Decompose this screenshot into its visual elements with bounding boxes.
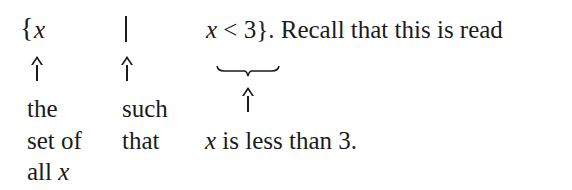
up-arrow-icon bbox=[126, 57, 128, 81]
condition: x < 3}. Recall that this is read bbox=[206, 17, 503, 42]
annotation-the: the bbox=[27, 96, 58, 121]
annotation-all-x: all x bbox=[27, 159, 69, 184]
condition-inequality: < 3} bbox=[217, 16, 268, 43]
annotation-all-variable: x bbox=[58, 158, 69, 185]
annotation-set-of: set of bbox=[27, 128, 82, 153]
annotation-that: that bbox=[122, 128, 160, 153]
up-arrow-icon bbox=[247, 88, 249, 112]
trailing-sentence: . Recall that this is read bbox=[268, 16, 503, 43]
up-arrow-icon bbox=[36, 57, 38, 81]
set-variable: x bbox=[34, 17, 45, 42]
open-brace: { bbox=[20, 14, 33, 42]
annotation-all: all bbox=[27, 158, 58, 185]
such-that-bar bbox=[125, 16, 127, 42]
annotation-less-than: is less than 3. bbox=[216, 127, 357, 154]
annotation-condition-meaning: x is less than 3. bbox=[205, 128, 357, 153]
underbrace-icon bbox=[216, 64, 280, 78]
condition-variable: x bbox=[206, 16, 217, 43]
annotation-variable: x bbox=[205, 127, 216, 154]
annotation-such: such bbox=[122, 96, 168, 121]
